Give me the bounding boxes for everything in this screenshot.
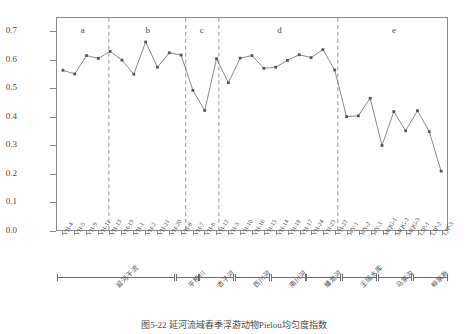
data-point-marker[interactable] <box>85 54 88 57</box>
cluster-letter: b <box>145 25 150 35</box>
data-point-marker[interactable] <box>180 54 183 57</box>
data-point-marker[interactable] <box>428 130 431 133</box>
group-bracket-cap <box>413 274 414 281</box>
y-tick-label: 0.7 <box>0 25 17 35</box>
series-plot <box>57 18 447 230</box>
group-bracket-cap <box>378 274 379 281</box>
data-point-marker[interactable] <box>333 69 336 72</box>
figure-caption: 图5-22 延河流域春季浮游动物Pielou均匀度指数 <box>0 318 468 331</box>
cluster-letter: e <box>392 25 396 35</box>
data-point-marker[interactable] <box>239 57 242 60</box>
cluster-letter: d <box>277 25 282 35</box>
y-tick-label: 0.0 <box>0 225 17 235</box>
group-bracket-cap <box>57 274 58 281</box>
y-tick-label: 0.4 <box>0 111 17 121</box>
data-point-marker[interactable] <box>97 57 100 60</box>
y-tick-mark <box>50 231 56 232</box>
data-point-marker[interactable] <box>286 59 289 62</box>
data-point-marker[interactable] <box>404 129 407 132</box>
group-bracket-cap <box>306 274 307 281</box>
data-point-marker[interactable] <box>345 115 348 118</box>
cluster-letter: c <box>200 25 204 35</box>
data-point-marker[interactable] <box>274 66 277 69</box>
data-point-marker[interactable] <box>322 48 325 51</box>
series-line <box>63 42 441 171</box>
data-point-marker[interactable] <box>369 97 372 100</box>
figure-container: Pielou均匀度指数 0.00.10.20.30.40.50.60.7 abc… <box>0 0 468 334</box>
group-bracket-cap <box>176 274 177 281</box>
data-point-marker[interactable] <box>381 144 384 147</box>
data-point-marker[interactable] <box>416 109 419 112</box>
x-axis-labels: YH-4YH-5YH-9YH-11YH-13YH-19YH-1YH-2YH-21… <box>56 233 448 273</box>
group-bracket-cap <box>174 274 175 281</box>
group-bracket-cap <box>235 274 236 281</box>
group-bracket-axis: 延河干流平桥川杏子河西川河南川河蟠龙河王瑶水库马家沟柳家新 <box>56 277 448 278</box>
data-point-marker[interactable] <box>262 67 265 70</box>
y-tick-label: 0.2 <box>0 168 17 178</box>
data-point-marker[interactable] <box>144 41 147 44</box>
data-point-marker[interactable] <box>121 59 124 62</box>
y-tick-label: 0.6 <box>0 54 17 64</box>
data-point-marker[interactable] <box>357 114 360 117</box>
group-bracket-cap <box>199 274 200 281</box>
cluster-letter: a <box>81 25 85 35</box>
y-tick-label: 0.5 <box>0 82 17 92</box>
data-point-marker[interactable] <box>168 51 171 54</box>
data-point-marker[interactable] <box>227 81 230 84</box>
data-point-marker[interactable] <box>132 73 135 76</box>
data-point-marker[interactable] <box>62 69 65 72</box>
group-bracket-cap <box>271 274 272 281</box>
data-point-marker[interactable] <box>215 57 218 60</box>
data-point-marker[interactable] <box>440 170 443 173</box>
data-point-marker[interactable] <box>310 56 313 59</box>
data-point-marker[interactable] <box>298 53 301 56</box>
y-tick-label: 0.1 <box>0 196 17 206</box>
y-tick-label: 0.3 <box>0 139 17 149</box>
data-point-marker[interactable] <box>192 89 195 92</box>
plot-area <box>56 17 448 231</box>
group-bracket-cap <box>342 274 343 281</box>
data-point-marker[interactable] <box>109 50 112 53</box>
data-point-marker[interactable] <box>156 66 159 69</box>
data-point-marker[interactable] <box>73 73 76 76</box>
data-point-marker[interactable] <box>392 110 395 113</box>
data-point-marker[interactable] <box>203 109 206 112</box>
data-point-marker[interactable] <box>251 54 254 57</box>
